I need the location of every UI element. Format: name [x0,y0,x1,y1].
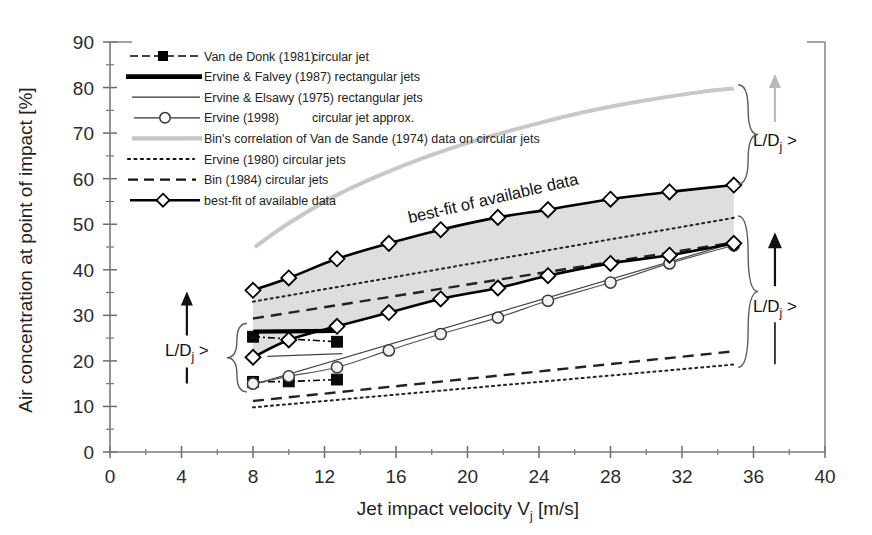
y-axis-title: Air concentration at point of impact [%] [15,87,36,412]
ratio-annotation-left-main: L/D [165,341,191,360]
ratio-annotation-lower-right-main: L/D [753,297,779,316]
x-tick-label: 4 [176,466,187,487]
marker-circle [435,328,446,339]
ratio-annotation-upper-right-tail: > [782,131,797,150]
y-tick-label: 20 [73,351,94,372]
x-axis-title-main: Jet impact velocity V [357,498,530,519]
legend-label: Ervine & Falvey (1987) rectangular jets [204,70,420,84]
legend-label-secondary: circular jet approx. [312,111,414,125]
x-tick-label: 20 [457,466,478,487]
marker-circle [605,277,616,288]
marker-circle [492,312,503,323]
marker-circle [383,345,394,356]
x-tick-label: 36 [743,466,764,487]
x-tick-label: 8 [248,466,259,487]
series-ervine-falvey-1987 [253,331,337,332]
legend-label: Bin (1984) circular jets [204,173,328,187]
y-tick-label: 50 [73,214,94,235]
y-tick-label: 90 [73,32,94,53]
legend-marker-square [158,51,168,61]
y-tick-label: 70 [73,123,94,144]
legend-label: Ervine (1998) [204,111,279,125]
y-tick-label: 40 [73,260,94,281]
y-axis-title-text: Air concentration at point of impact [%] [15,87,36,412]
legend-label: Bin's correlation of Van de Sande (1974)… [204,132,540,146]
chart-svg: Air concentration at point of impact [%]… [0,0,872,535]
marker-square [332,374,343,385]
y-tick-label: 0 [83,442,94,463]
legend-label: Ervine & Elsawy (1975) rectangular jets [204,91,423,105]
x-tick-label: 32 [671,466,692,487]
y-tick-label: 10 [73,396,94,417]
x-tick-label: 12 [314,466,335,487]
marker-circle [247,378,258,389]
legend-label: best-fit of available data [204,194,336,208]
x-axis-title-units: [m/s] [533,498,579,519]
marker-circle [331,362,342,373]
y-tick-label: 60 [73,169,94,190]
series-line [253,331,337,332]
y-tick-label: 80 [73,78,94,99]
legend-label: Van de Donk (1981) [204,50,315,64]
x-tick-label: 28 [600,466,621,487]
y-tick-label: 30 [73,305,94,326]
ratio-annotation-left-tail: > [194,341,209,360]
legend-label-secondary: circular jet [312,50,369,64]
x-tick-label: 16 [385,466,406,487]
legend-label: Ervine (1980) circular jets [204,153,346,167]
legend-item-7[interactable]: best-fit of available data [130,194,336,208]
chart-figure: Air concentration at point of impact [%]… [0,0,872,535]
marker-circle [542,295,553,306]
ratio-annotation-lower-right-tail: > [782,297,797,316]
legend-marker-circle [160,113,170,123]
marker-circle [283,371,294,382]
x-tick-label: 24 [528,466,550,487]
x-tick-label: 40 [814,466,835,487]
marker-square [332,336,343,347]
x-tick-label: 0 [105,466,116,487]
